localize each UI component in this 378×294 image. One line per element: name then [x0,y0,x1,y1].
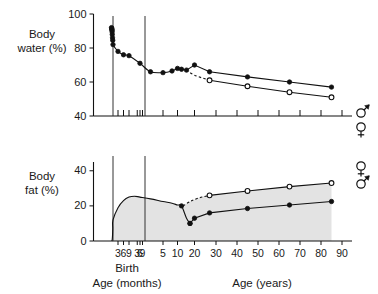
body-fat-ytick-label: 20 [74,199,86,211]
body-fat-marker-male [188,221,192,225]
body-fat-marker-male [329,199,333,203]
xtick-label-year: 80 [315,247,327,259]
body-water-marker-prenatal-infant-child (combined) [148,70,152,74]
body-water-ytick-label: 100 [68,8,86,20]
legend-female-symbol-bottom [357,162,365,177]
body-water-axis-label: Body [29,28,55,40]
body-fat-marker-male [245,206,249,210]
xtick-label-month: 9 [126,247,132,259]
body-water-ytick-label: 80 [74,42,86,54]
body-water-marker-prenatal-infant-child (combined) [138,61,142,65]
body-water-ytick-label: 40 [74,110,86,122]
body-water-marker-prenatal-infant-child (combined) [121,53,125,57]
xtick-label-year: 90 [336,247,348,259]
birth-annotation: Birth [115,262,139,274]
body-water-marker-female [207,78,212,83]
body-fat-axis-label: Body [29,170,55,182]
body-water-marker-prenatal-infant-child (combined) [111,42,115,46]
body-fat-marker-male [192,216,196,220]
body-water-ytick-label: 60 [74,76,86,88]
body-fat-marker-male [207,211,211,215]
body-water-marker-female [245,84,250,89]
body-fat-marker-female [207,193,212,198]
legend-female-symbol-top [357,123,365,138]
body-water-line-child [112,28,187,73]
body-water-marker-prenatal-infant-child (combined) [170,69,174,73]
xtick-label-year: 5 [160,247,166,259]
body-fat-ytick-label: 40 [74,164,86,176]
body-water-marker-male [207,70,211,74]
body-water-marker-prenatal-infant-child (combined) [111,38,115,42]
xtick-label-year: 30 [210,247,222,259]
body-composition-figure: 406080100020403693695102030405060708090B… [0,0,378,294]
xtick-label-month: 9 [140,247,146,259]
body-water-marker-female [287,90,292,95]
body-water-marker-prenatal-infant-child (combined) [161,70,165,74]
body-water-line-male [187,65,332,87]
body-fat-marker-female [287,184,292,189]
x-axis-label-years: Age (years) [232,277,292,289]
body-water-line-female [210,80,332,97]
body-fat-ytick-label: 0 [80,235,86,247]
body-water-line-female-branch [187,70,210,80]
xtick-label-year: 20 [189,247,201,259]
body-water-axis-label: water (%) [16,42,66,54]
xtick-label-year: 60 [273,247,285,259]
xtick-label-year: 50 [252,247,264,259]
xtick-label-year: 70 [294,247,306,259]
x-axis-label-months: Age (months) [92,277,161,289]
body-water-marker-prenatal-infant-child (combined) [127,53,131,57]
body-fat-marker-male [287,203,291,207]
body-water-marker-prenatal-infant-child (combined) [179,67,183,71]
xtick-label-year: 40 [231,247,243,259]
body-water-marker-male [287,80,291,84]
legend-male-symbol-top [357,105,370,118]
body-water-marker-prenatal-infant-child (combined) [116,49,120,53]
body-water-marker-male [329,85,333,89]
body-fat-axis-label: fat (%) [25,184,59,196]
body-fat-marker-child [179,204,183,208]
body-water-marker-female [329,95,334,100]
body-water-marker-male [192,63,196,67]
body-fat-marker-female [329,181,334,186]
xtick-label-year: 10 [172,247,184,259]
body-fat-marker-female [245,189,250,194]
legend-male-symbol-bottom [357,176,370,189]
body-water-marker-male [245,75,249,79]
chart-canvas: 406080100020403693695102030405060708090B… [0,0,378,294]
body-water-marker-prenatal-infant-child (combined) [184,68,188,72]
